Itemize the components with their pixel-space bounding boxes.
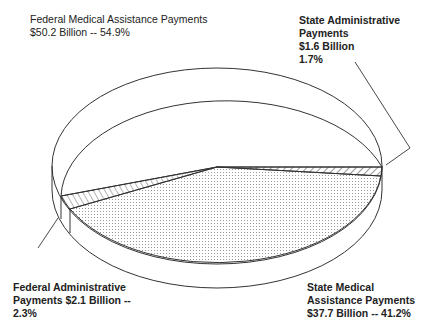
label-state-med-line3: $37.7 Billion -- 41.2% [307, 307, 415, 320]
label-state-admin-percent: 1.7% [299, 53, 400, 66]
label-state-administrative: State Administrative Payments $1.6 Billi… [299, 14, 400, 66]
label-federal-medical-name: Federal Medical Assistance Payments [30, 13, 207, 26]
label-state-medical: State Medical Assistance Payments $37.7 … [307, 281, 415, 320]
label-fed-admin-line3: 2.3% [13, 307, 131, 320]
label-state-med-line1: State Medical [307, 281, 415, 294]
label-state-admin-value: $1.6 Billion [299, 40, 400, 53]
label-state-med-line2: Assistance Payments [307, 294, 415, 307]
label-state-admin-line1: State Administrative [299, 14, 400, 27]
label-federal-administrative: Federal Administrative Payments $2.1 Bil… [13, 281, 131, 320]
leader-fed-admin [38, 218, 58, 248]
label-federal-medical-value: $50.2 Billion -- 54.9% [30, 26, 207, 39]
label-fed-admin-line1: Federal Administrative [13, 281, 131, 294]
label-state-admin-line2: Payments [299, 27, 400, 40]
label-fed-admin-line2: Payments $2.1 Billion -- [13, 294, 131, 307]
label-federal-medical: Federal Medical Assistance Payments $50.… [30, 13, 207, 39]
